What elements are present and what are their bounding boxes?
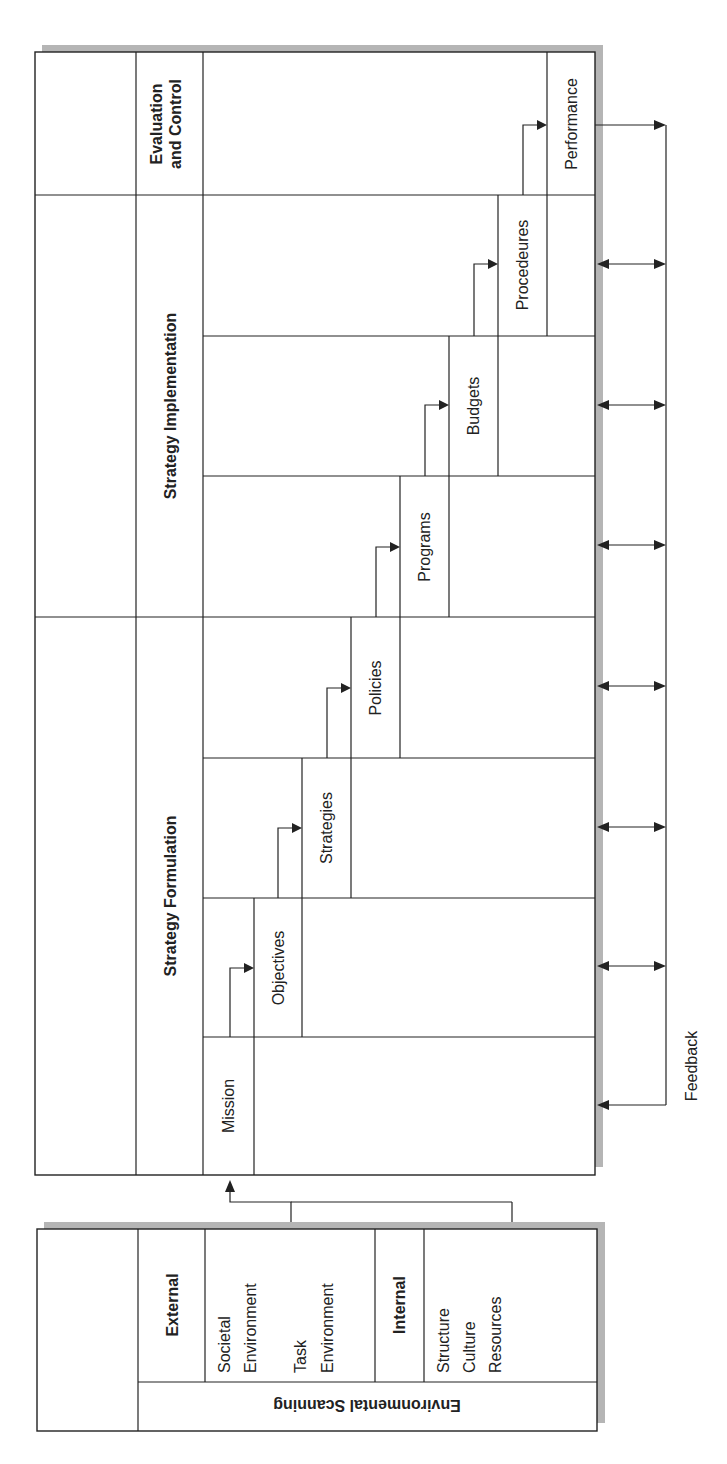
- feedback-double-arrows: [597, 259, 666, 971]
- environmental-scanning-box: External Societal Environment Task Envir…: [37, 1222, 605, 1431]
- societal-environment-line1: Societal: [216, 1316, 233, 1373]
- main-process-box: Evaluation and Control Strategy Implemen…: [35, 45, 603, 1175]
- step-label-budgets: Budgets: [465, 377, 482, 436]
- double-arrow-icon: [597, 681, 666, 691]
- step-label-programs: Programs: [416, 512, 433, 581]
- internal-label: Internal: [391, 1276, 408, 1334]
- environmental-scanning-title: Environmental Scanning: [273, 1397, 461, 1414]
- phase-label-formulation: Strategy Formulation: [162, 816, 179, 977]
- phase-label-implementation: Strategy Implementation: [162, 313, 179, 500]
- phase-label-evaluation-line1: Evaluation: [148, 84, 165, 165]
- internal-item-resources: Resources: [487, 1297, 504, 1373]
- step-label-mission: Mission: [220, 1079, 237, 1133]
- strategic-management-diagram: Evaluation and Control Strategy Implemen…: [0, 0, 727, 1464]
- double-arrow-icon: [597, 540, 666, 550]
- internal-item-culture: Culture: [461, 1321, 478, 1373]
- task-environment-line2: Environment: [319, 1283, 336, 1373]
- step-label-policies: Policies: [367, 660, 384, 715]
- scanning-box-shadow-right: [597, 1222, 605, 1423]
- external-label: External: [164, 1273, 181, 1336]
- arrow-up-icon: [225, 1180, 235, 1192]
- step-label-performance: Performance: [563, 78, 580, 170]
- double-arrow-icon: [597, 822, 666, 832]
- step-label-procedures: Procedeures: [514, 220, 531, 311]
- step-label-strategies: Strategies: [318, 792, 335, 864]
- double-arrow-icon: [597, 961, 666, 971]
- main-box-shadow-right: [595, 45, 603, 1167]
- phase-label-evaluation-line2: and Control: [167, 79, 184, 169]
- main-box-frame: [35, 52, 595, 1175]
- internal-item-structure: Structure: [435, 1308, 452, 1373]
- arrow-right-icon: [654, 120, 666, 130]
- societal-environment-line2: Environment: [242, 1283, 259, 1373]
- task-environment-line1: Task: [292, 1339, 309, 1373]
- double-arrow-icon: [597, 259, 666, 269]
- feedback-label: Feedback: [683, 1030, 700, 1101]
- scanning-to-mission-connector: [225, 1180, 512, 1229]
- step-label-objectives: Objectives: [270, 931, 287, 1006]
- feedback-loop: Feedback: [595, 120, 700, 1110]
- double-arrow-icon: [597, 400, 666, 410]
